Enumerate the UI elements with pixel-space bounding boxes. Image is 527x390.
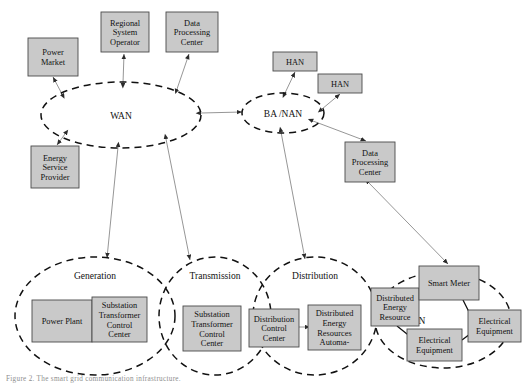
edge-wan-generation [107, 147, 118, 258]
box-label-power-market: Market [41, 58, 66, 67]
box-label-energy-service-provider: Service [42, 163, 67, 172]
edge-wan-transmission [166, 139, 190, 260]
box-han-box-2[interactable]: HAN [318, 74, 362, 93]
smart-grid-diagram: WANBA /NANGenerationTransmissionDistribu… [0, 0, 527, 390]
box-label-substation-transformer-control-center-gen: Transformer [99, 311, 141, 320]
edge-wan-banan [201, 112, 242, 113]
figure-caption: Figure 2. The smart grid communication i… [6, 375, 436, 383]
boxes-layer: PowerMarketRegionalSystemOperatorDataPro… [28, 12, 521, 361]
box-label-electrical-equipment-2: Electrical [478, 317, 511, 326]
box-label-data-processing-center-right: Processing [352, 158, 389, 167]
box-energy-service-provider[interactable]: EnergyServiceProvider [31, 146, 79, 188]
box-label-distributed-energy-resources-automation: Energy [322, 319, 347, 328]
box-label-substation-transformer-control-center-gen: Control [107, 321, 133, 330]
cloud-label-banan: BA /NAN [264, 109, 302, 119]
cloud-label-dist: Distribution [292, 271, 338, 281]
box-regional-system-operator[interactable]: RegionalSystemOperator [101, 12, 149, 52]
box-label-substation-transformer-control-center-gen: Substation [102, 301, 138, 310]
box-label-electrical-equipment-2: Equipment [476, 327, 513, 336]
box-label-substation-transformer-control-center-trans: Substation [194, 310, 230, 319]
edge-banan-distribution [281, 132, 305, 259]
edge-wan-power-market [53, 77, 62, 94]
box-label-distributed-energy-resources-automation: Automa- [320, 338, 350, 347]
box-label-distributed-energy-resource: Energy [383, 303, 408, 312]
box-distributed-energy-resource[interactable]: DistributedEnergyResource [371, 288, 419, 326]
box-electrical-equipment-2[interactable]: ElectricalEquipment [468, 310, 521, 342]
edge-banan-data-processing-center [313, 121, 366, 141]
box-label-substation-transformer-control-center-trans: Transformer [191, 320, 233, 329]
box-label-energy-service-provider: Provider [41, 173, 70, 182]
edge-wan-data-processing-center [177, 54, 189, 89]
box-label-energy-service-provider: Energy [43, 154, 68, 163]
box-electrical-equipment-1[interactable]: ElectricalEquipment [407, 329, 462, 361]
box-power-plant[interactable]: Power Plant [32, 300, 92, 342]
edge-wan-regional-system-operator [123, 54, 124, 83]
box-label-power-market: Power [42, 48, 64, 57]
box-label-han-box-1: HAN [286, 58, 304, 67]
edge-banan-han-2 [322, 94, 340, 109]
box-data-processing-center-top[interactable]: DataProcessingCenter [166, 12, 218, 52]
box-power-market[interactable]: PowerMarket [28, 38, 78, 76]
edges-layer [53, 54, 448, 327]
box-han-box-1[interactable]: HAN [273, 52, 317, 71]
box-label-regional-system-operator: Operator [110, 38, 140, 47]
box-label-substation-transformer-control-center-gen: Center [108, 330, 131, 339]
box-distribution-control-center[interactable]: DistributionControlCenter [249, 309, 299, 347]
box-label-electrical-equipment-1: Equipment [416, 346, 453, 355]
box-label-distribution-control-center: Control [261, 324, 287, 333]
box-label-data-processing-center-right: Data [362, 149, 378, 158]
box-label-smart-meter: Smart Meter [428, 279, 470, 288]
box-smart-meter[interactable]: Smart Meter [419, 266, 479, 300]
box-label-distributed-energy-resource: Distributed [376, 294, 414, 303]
box-substation-transformer-control-center-trans[interactable]: SubstationTransformerControlCenter [183, 306, 241, 351]
box-label-regional-system-operator: System [113, 28, 138, 37]
cloud-label-wan: WAN [110, 111, 132, 121]
box-label-distributed-energy-resources-automation: Resources [317, 329, 351, 338]
box-label-han-box-2: HAN [331, 80, 349, 89]
box-label-substation-transformer-control-center-trans: Control [199, 330, 225, 339]
cloud-label-gen: Generation [74, 271, 116, 281]
box-label-distribution-control-center: Distribution [254, 315, 295, 324]
box-label-distributed-energy-resource: Resource [379, 313, 410, 322]
cloud-label-trans: Transmission [190, 271, 241, 281]
box-substation-transformer-control-center-gen[interactable]: SubstationTransformerControlCenter [92, 297, 147, 342]
box-distributed-energy-resources-automation[interactable]: DistributedEnergyResourcesAutoma- [308, 305, 361, 350]
box-label-regional-system-operator: Regional [110, 19, 141, 28]
box-label-substation-transformer-control-center-trans: Center [201, 339, 224, 348]
box-label-data-processing-center-top: Center [181, 38, 204, 47]
box-label-data-processing-center-right: Center [359, 168, 382, 177]
box-label-data-processing-center-top: Data [184, 19, 200, 28]
box-label-data-processing-center-top: Processing [174, 28, 211, 37]
box-label-distributed-energy-resources-automation: Distributed [316, 309, 354, 318]
edge-dpc-smart-meter [369, 183, 448, 264]
box-data-processing-center-right[interactable]: DataProcessingCenter [345, 142, 395, 182]
box-label-power-plant: Power Plant [42, 317, 83, 326]
box-label-distribution-control-center: Center [263, 334, 286, 343]
edge-banan-han-1 [285, 72, 295, 93]
box-label-electrical-equipment-1: Electrical [418, 336, 451, 345]
